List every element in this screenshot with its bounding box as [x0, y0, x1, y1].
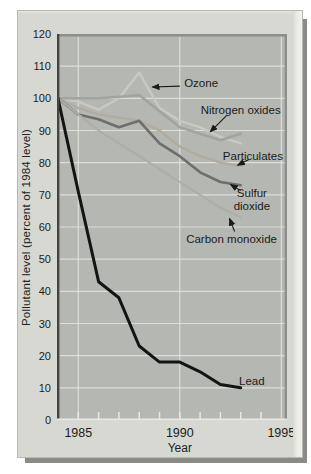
label-nitrogen-oxides: Nitrogen oxides	[201, 103, 281, 116]
y-tick-label: 100	[18, 92, 51, 104]
label-ozone: Ozone	[184, 76, 218, 89]
y-tick-label: 10	[18, 382, 51, 394]
y-tick-label: 30	[18, 318, 51, 330]
x-tick-label: 1995	[267, 426, 295, 440]
label-lead: Lead	[239, 374, 265, 387]
arrow-ozone	[152, 86, 179, 87]
figure-panel: Pollutant level (percent of 1984 level) …	[17, 10, 303, 458]
y-tick-label: 70	[18, 189, 51, 201]
arrow-carbon-monoxide	[230, 219, 235, 232]
chart-canvas	[57, 34, 287, 420]
y-tick-label: 80	[18, 157, 51, 169]
x-tick-label: 1985	[64, 426, 92, 440]
label-carbon-monoxide: Carbon monoxide	[186, 232, 277, 245]
y-tick-label: 40	[18, 285, 51, 297]
y-tick-label: 20	[18, 350, 51, 362]
y-tick-label: 50	[18, 253, 51, 265]
x-tick-marks	[78, 412, 261, 419]
series-lines	[58, 73, 241, 388]
x-tick-label: 1990	[166, 426, 194, 440]
label-sulfur-dioxide: Sulfurdioxide	[234, 187, 270, 213]
plot-area: OzoneNitrogen oxidesParticulatesSulfurdi…	[57, 34, 287, 420]
page: { "figure": { "y_axis_title": "Pollutant…	[0, 0, 311, 474]
y-tick-label: 90	[18, 125, 51, 137]
y-tick-label: 60	[18, 221, 51, 233]
y-tick-label: 110	[18, 60, 51, 72]
x-axis-title: Year	[168, 441, 192, 455]
label-particulates: Particulates	[223, 149, 283, 162]
y-tick-label: 0	[18, 414, 51, 426]
y-tick-label: 120	[18, 28, 51, 40]
arrow-nitrogen-oxides	[210, 116, 226, 132]
